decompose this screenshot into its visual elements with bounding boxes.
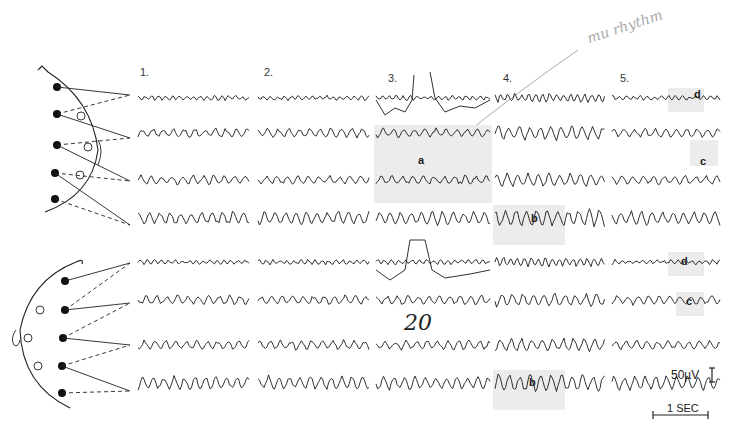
time-scale-label: 1 SEC [667,402,699,414]
scale-bars [0,0,739,436]
